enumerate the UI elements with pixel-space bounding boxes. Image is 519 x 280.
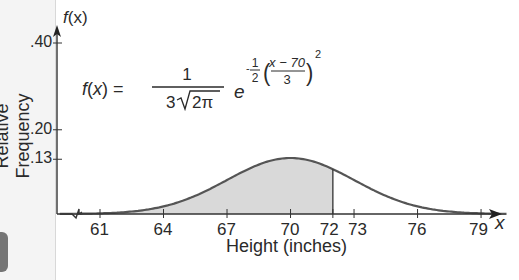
y-tick-label: .13 bbox=[30, 149, 52, 167]
formula-svg: f(x) = 1 3 2π e - 1 2 ( x − 70 3 ) 2 bbox=[82, 58, 442, 128]
x-axis-symbol: x bbox=[495, 212, 505, 234]
svg-text:f(x) =: f(x) = bbox=[82, 79, 124, 99]
svg-text:3: 3 bbox=[166, 93, 175, 112]
svg-text:2: 2 bbox=[252, 71, 259, 85]
y-tick-label: .20 bbox=[30, 120, 52, 138]
x-tick-label: 79 bbox=[469, 220, 488, 240]
y-axis-symbol: f(x) bbox=[63, 8, 88, 28]
shaded-area bbox=[60, 158, 333, 214]
svg-text:2π: 2π bbox=[192, 93, 213, 112]
svg-text:-: - bbox=[246, 62, 250, 74]
x-axis-label: Height (inches) bbox=[226, 236, 347, 257]
svg-text:e: e bbox=[234, 81, 245, 102]
svg-text:1: 1 bbox=[252, 56, 259, 70]
y-tick-label: .40 bbox=[30, 33, 52, 51]
y-axis-label: Relative Frequency bbox=[0, 61, 34, 211]
x-tick-label: 61 bbox=[90, 220, 109, 240]
svg-text:2: 2 bbox=[315, 48, 321, 60]
svg-text:3: 3 bbox=[283, 72, 290, 87]
svg-text:x − 70: x − 70 bbox=[268, 55, 306, 70]
svg-text:1: 1 bbox=[182, 65, 191, 84]
formula: f(x) = 1 3 2π e - 1 2 ( x − 70 3 ) 2 bbox=[82, 58, 442, 133]
x-tick-label: 64 bbox=[154, 220, 173, 240]
x-tick-label: 73 bbox=[348, 220, 367, 240]
svg-text:): ) bbox=[306, 59, 313, 86]
x-tick-label: 76 bbox=[408, 220, 427, 240]
